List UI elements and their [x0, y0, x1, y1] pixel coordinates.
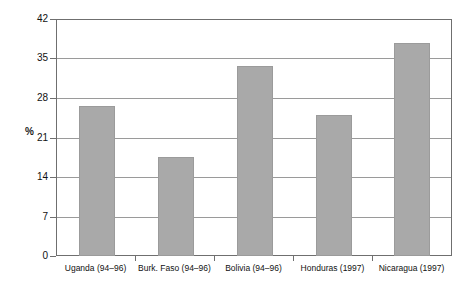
- y-tick-label-0: 0: [22, 251, 48, 261]
- bar-bolivia: [237, 66, 273, 256]
- x-category-label-nicaragua: Nicaragua (1997): [372, 263, 451, 273]
- bar-honduras: [316, 115, 352, 256]
- y-tick-label-28: 28: [22, 93, 48, 103]
- x-tick-mark-2: [214, 256, 215, 261]
- x-category-label-bolivia: Bolivia (94–96): [214, 263, 293, 273]
- y-tick-label-7: 7: [22, 212, 48, 222]
- y-tick-label-14: 14: [22, 172, 48, 182]
- gridline-35: [57, 58, 451, 59]
- bar-chart: % 42 35 28 21 14 7 0 Uganda (94–96) Burk…: [0, 0, 471, 287]
- y-tick-mark-0: [50, 256, 56, 257]
- bar-uganda: [79, 106, 115, 256]
- x-category-label-burk-faso: Burk. Faso (94–96): [135, 263, 214, 273]
- y-tick-label-35: 35: [22, 53, 48, 63]
- x-tick-mark-1: [135, 256, 136, 261]
- y-tick-label-42: 42: [22, 14, 48, 24]
- bar-burk-faso: [158, 157, 194, 256]
- x-tick-mark-4: [372, 256, 373, 261]
- x-tick-mark-3: [293, 256, 294, 261]
- bar-nicaragua: [394, 43, 430, 256]
- plot-area: [56, 19, 452, 256]
- y-tick-label-21: 21: [22, 133, 48, 143]
- x-category-label-honduras: Honduras (1997): [293, 263, 372, 273]
- x-category-label-uganda: Uganda (94–96): [56, 263, 135, 273]
